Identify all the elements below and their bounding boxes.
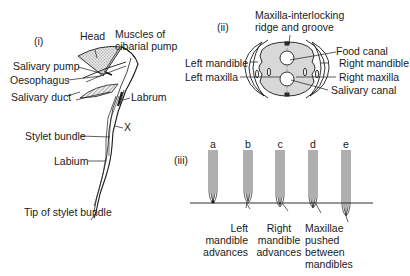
label-salivary-duct: Salivary duct <box>11 91 71 103</box>
label-right-mandible: Right mandible <box>339 57 409 69</box>
stage-e-stylets <box>342 150 350 222</box>
stage-b-stylets <box>244 150 252 209</box>
panel-i-label: (i) <box>34 35 43 47</box>
stage-a-stylets <box>209 150 217 203</box>
label-food-canal: Food canal <box>336 45 388 57</box>
label-left-mandible: Left mandible <box>185 57 248 69</box>
stage-d-letter: d <box>309 138 317 150</box>
stage-c-letter: c <box>276 138 284 150</box>
label-x: X <box>124 121 131 133</box>
caption-stage-d: Maxillae pushed between mandibles <box>305 222 353 270</box>
panel-iii-label: (iii) <box>174 154 188 166</box>
label-salivary-canal: Salivary canal <box>331 84 396 96</box>
label-cibarial-muscles: Muscles of cibarial pump <box>115 28 177 52</box>
label-head: Head <box>80 30 105 42</box>
stage-d-stylets <box>309 150 321 213</box>
label-labrum: Labrum <box>131 91 167 103</box>
salivary-duct-shape <box>80 84 118 98</box>
panel-ii-label: (ii) <box>217 21 229 33</box>
stage-a-letter: a <box>209 138 217 150</box>
label-labium: Labium <box>54 155 88 167</box>
stylet-stages <box>209 150 350 222</box>
label-stylet-bundle: Stylet bundle <box>25 130 86 142</box>
caption-stage-b: Left mandible advances <box>203 222 248 258</box>
stage-e-letter: e <box>342 138 350 150</box>
salivary-canal-shape <box>280 72 294 86</box>
label-right-maxilla: Right maxilla <box>339 71 399 83</box>
label-left-maxilla: Left maxilla <box>185 71 238 83</box>
caption-stage-c: Right mandible advances <box>256 222 302 258</box>
label-salivary-pump: Salivary pump <box>13 60 80 72</box>
label-ridge-groove: Maxilla-interlocking ridge and groove <box>255 9 344 33</box>
stage-b-letter: b <box>244 138 252 150</box>
stylet-cross-section <box>245 40 329 98</box>
stage-c-stylets <box>276 150 288 211</box>
label-oesophagus: Oesophagus <box>10 74 70 86</box>
label-tip-stylet: Tip of stylet bundle <box>24 206 112 218</box>
food-canal-shape <box>280 51 294 65</box>
